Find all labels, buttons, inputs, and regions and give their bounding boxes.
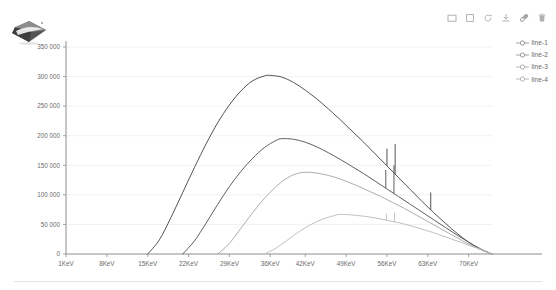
spectrum-line-chart[interactable]: 050 000100 000150 000200 000250 000300 0… (0, 0, 556, 276)
chart-area[interactable]: 050 000100 000150 000200 000250 000300 0… (0, 0, 556, 276)
y-axis-tick-labels: 050 000100 000150 000200 000250 000300 0… (37, 43, 60, 257)
svg-text:1KeV: 1KeV (58, 260, 74, 267)
chart-app: line-1 line-2 line-3 line-4 (0, 0, 556, 290)
svg-text:63KeV: 63KeV (418, 260, 438, 267)
svg-text:70KeV: 70KeV (459, 260, 479, 267)
footer-divider (14, 281, 542, 282)
svg-text:36KeV: 36KeV (261, 260, 281, 267)
svg-text:0: 0 (56, 250, 60, 257)
svg-text:22KeV: 22KeV (179, 260, 199, 267)
svg-text:49KeV: 49KeV (337, 260, 357, 267)
chart-series (148, 75, 492, 254)
svg-text:300 000: 300 000 (37, 73, 60, 80)
svg-text:42KeV: 42KeV (296, 260, 316, 267)
svg-text:250 000: 250 000 (37, 102, 60, 109)
svg-text:150 000: 150 000 (37, 162, 60, 169)
chart-gridlines (66, 47, 492, 224)
series-line-3 (218, 172, 492, 254)
svg-text:15KeV: 15KeV (138, 260, 158, 267)
svg-text:56KeV: 56KeV (378, 260, 398, 267)
x-axis-tick-labels: 1KeV8KeV15KeV22KeV29KeV36KeV42KeV49KeV56… (58, 260, 479, 267)
series-line-1 (148, 75, 492, 254)
svg-text:29KeV: 29KeV (220, 260, 240, 267)
svg-text:8KeV: 8KeV (99, 260, 115, 267)
series-line-4 (264, 213, 492, 254)
svg-text:200 000: 200 000 (37, 132, 60, 139)
svg-text:350 000: 350 000 (37, 43, 60, 50)
svg-text:100 000: 100 000 (37, 191, 60, 198)
svg-text:50 000: 50 000 (41, 221, 61, 228)
